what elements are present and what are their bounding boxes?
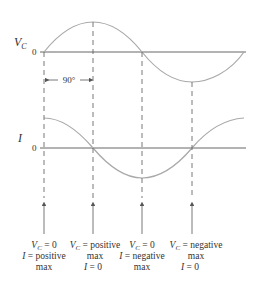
vc-zero-label: 0 — [32, 47, 37, 57]
i-graph: I 0 — [17, 118, 246, 178]
phase-label: 90° — [63, 75, 76, 85]
marker-3-line2: max — [188, 251, 205, 261]
marker-0-line3: max — [36, 262, 53, 272]
marker-0-line2: I = positive — [21, 251, 65, 261]
marker-arrows — [44, 204, 192, 234]
vc-axis-label: VC — [14, 35, 27, 51]
phase-annotation: 90° — [47, 75, 91, 85]
vc-graph: VC 0 — [14, 22, 246, 82]
marker-1-line3: I = 0 — [83, 262, 102, 272]
dashed-guides — [44, 22, 192, 198]
marker-labels: VC = 0 I = positive max VC = positive ma… — [21, 240, 222, 272]
marker-3-line3: I = 0 — [180, 262, 199, 272]
phase-diagram: VC 0 90° I 0 VC = 0 I = positive max VC … — [0, 0, 259, 283]
i-zero-label: 0 — [32, 143, 37, 153]
marker-2-line3: max — [134, 262, 151, 272]
marker-2-line2: I = negative — [118, 251, 164, 261]
i-axis-label: I — [17, 131, 23, 145]
marker-1-line2: max — [87, 251, 104, 261]
